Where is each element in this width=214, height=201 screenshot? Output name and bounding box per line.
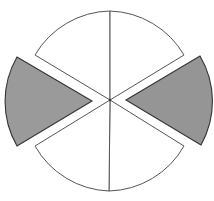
circle-sectors-graphic: [0, 0, 214, 201]
center-point: [109, 99, 111, 101]
sector-diagram: [0, 0, 214, 201]
